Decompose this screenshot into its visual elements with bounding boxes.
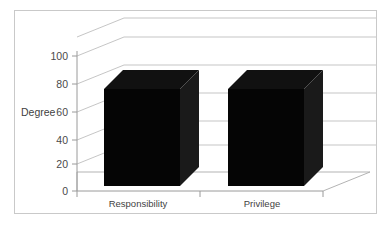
bar-responsibility-front xyxy=(104,89,180,186)
y-tick-label-40: 40 xyxy=(56,134,68,146)
gridline-100 xyxy=(77,37,376,56)
y-axis xyxy=(72,51,77,191)
x-axis-ticks xyxy=(77,191,323,197)
bar-privilege-front xyxy=(228,89,304,186)
y-tick-label-0: 0 xyxy=(62,185,68,197)
bar-responsibility-side xyxy=(180,70,199,186)
x-category-label-responsibility: Responsibility xyxy=(109,198,168,209)
y-tick-label-60: 60 xyxy=(56,106,68,118)
x-category-label-privilege: Privilege xyxy=(244,198,280,209)
bar-responsibility[interactable] xyxy=(104,70,199,186)
chart-figure: 100 80 60 40 20 0 Degree Responsibility xyxy=(0,0,391,228)
bar-chart-plot: 100 80 60 40 20 0 Degree Responsibility xyxy=(0,0,391,228)
y-tick-label-100: 100 xyxy=(50,50,68,62)
y-tick-label-20: 20 xyxy=(56,158,68,170)
bar-privilege[interactable] xyxy=(228,70,323,186)
bar-privilege-side xyxy=(304,70,323,186)
y-axis-title: Degree xyxy=(21,106,56,118)
y-tick-label-80: 80 xyxy=(56,78,68,90)
gridline-wall-top xyxy=(77,18,376,37)
